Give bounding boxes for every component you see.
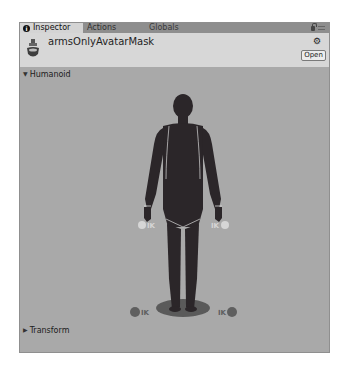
tab-label: Inspector <box>33 23 70 32</box>
body-part-right-arm[interactable] <box>202 128 221 209</box>
tab-label: Actions <box>87 23 116 32</box>
transform-foldout[interactable]: ▶Transform <box>23 325 69 336</box>
body-part-right-leg[interactable] <box>185 224 199 309</box>
collapsed-arrow-icon: ▶ <box>23 326 28 333</box>
expanded-arrow-icon: ▼ <box>23 70 28 77</box>
body-part-body[interactable] <box>163 123 203 227</box>
tab-tools <box>311 24 325 32</box>
tab-bar: iInspector Actions Globals <box>20 23 329 33</box>
ik-left-foot-toggle[interactable] <box>130 307 140 317</box>
ik-right-foot-toggle[interactable] <box>227 307 237 317</box>
gear-icon[interactable]: ⚙ <box>313 37 321 46</box>
body-part-left-hand[interactable] <box>144 207 151 222</box>
info-icon: i <box>23 25 30 32</box>
body-part-right-foot[interactable] <box>185 306 197 312</box>
tab-globals[interactable]: Globals <box>146 23 206 33</box>
body-part-right-hand[interactable] <box>215 207 222 222</box>
section-label: Humanoid <box>30 70 71 79</box>
ik-right-hand-label: IK <box>211 222 220 230</box>
body-part-left-leg[interactable] <box>167 224 181 309</box>
humanoid-body-mask: IK IK IK IK <box>20 79 329 323</box>
menu-icon[interactable] <box>318 26 325 30</box>
tab-label: Globals <box>149 23 179 32</box>
humanoid-figure: IK IK IK IK <box>20 79 329 323</box>
ik-left-foot-label: IK <box>141 309 150 317</box>
lock-icon[interactable] <box>311 26 315 31</box>
ik-left-hand-label: IK <box>147 222 156 230</box>
avatar-mask-icon <box>26 38 40 60</box>
body-part-left-foot[interactable] <box>169 306 181 312</box>
tab-inspector[interactable]: iInspector <box>20 23 83 33</box>
ik-right-foot-label: IK <box>218 309 227 317</box>
open-button[interactable]: Open <box>301 50 326 61</box>
ik-right-hand-toggle[interactable] <box>221 221 229 229</box>
inspector-panel: iInspector Actions Globals armsOnlyAvata… <box>19 22 330 353</box>
asset-title: armsOnlyAvatarMask <box>48 36 154 47</box>
root-shadow[interactable] <box>156 299 210 317</box>
body-part-left-arm[interactable] <box>145 128 164 209</box>
ik-left-hand-toggle[interactable] <box>138 221 146 229</box>
section-label: Transform <box>30 326 70 335</box>
asset-header: armsOnlyAvatarMask ⚙ Open <box>20 33 329 67</box>
body-part-head[interactable] <box>173 94 193 125</box>
tab-actions[interactable]: Actions <box>84 23 144 33</box>
